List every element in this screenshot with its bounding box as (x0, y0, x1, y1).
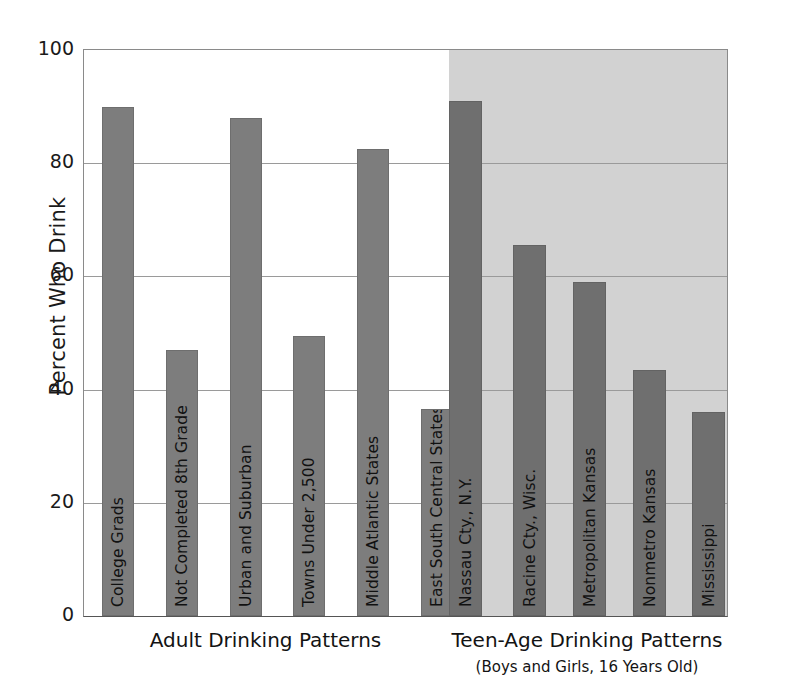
bar-8: Metropolitan Kansas (573, 282, 606, 616)
bar-label-4: Middle Atlantic States (364, 436, 382, 607)
bar-0: College Grads (102, 107, 134, 616)
bar-label-9: Nonmetro Kansas (641, 469, 659, 607)
bar-chart: Percent Who Drink 100806040200 College G… (0, 0, 811, 681)
y-tick-60: 60 (28, 265, 74, 284)
bar-label-8: Metropolitan Kansas (581, 447, 599, 607)
y-tick-100: 100 (28, 39, 74, 58)
caption-teen-sub: (Boys and Girls, 16 Years Old) (448, 658, 726, 676)
y-tick-20: 20 (28, 492, 74, 511)
bar-label-0: College Grads (109, 497, 127, 607)
bar-label-6: Nassau Cty., N.Y. (457, 477, 475, 607)
bars-layer: College GradsNot Completed 8th GradeUrba… (84, 50, 727, 616)
y-tick-80: 80 (28, 152, 74, 171)
bar-4: Middle Atlantic States (357, 149, 389, 616)
bar-6: Nassau Cty., N.Y. (449, 101, 482, 616)
bar-3: Towns Under 2,500 (293, 336, 325, 616)
bar-9: Nonmetro Kansas (633, 370, 666, 616)
y-tick-0: 0 (28, 605, 74, 624)
bar-2: Urban and Suburban (230, 118, 262, 616)
bar-label-2: Urban and Suburban (237, 444, 255, 607)
bar-label-1: Not Completed 8th Grade (173, 405, 191, 607)
bar-label-3: Towns Under 2,500 (300, 457, 318, 607)
bar-7: Racine Cty., Wisc. (513, 245, 546, 616)
bar-10: Mississippi (692, 412, 725, 616)
caption-teen: Teen-Age Drinking Patterns (448, 628, 726, 652)
y-tick-40: 40 (28, 379, 74, 398)
bar-1: Not Completed 8th Grade (166, 350, 198, 616)
bar-label-10: Mississippi (700, 523, 718, 607)
plot-area: College GradsNot Completed 8th GradeUrba… (83, 49, 728, 617)
bar-label-7: Racine Cty., Wisc. (521, 469, 539, 607)
y-axis-tick-labels: 100806040200 (22, 0, 74, 681)
bar-label-5: East South Central States (428, 409, 446, 607)
caption-adult: Adult Drinking Patterns (83, 628, 448, 652)
